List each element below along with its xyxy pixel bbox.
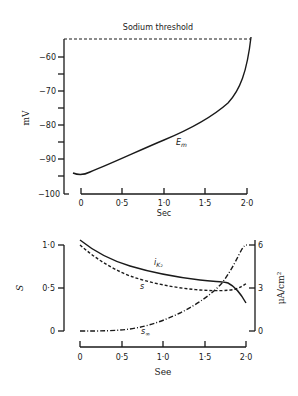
threshold-label: Sodium threshold bbox=[123, 23, 193, 32]
x-axis-label: See bbox=[155, 367, 172, 377]
y-tick-label: −80 bbox=[39, 121, 56, 130]
y-ticks bbox=[58, 57, 64, 176]
left-tick-label: 0·5 bbox=[42, 284, 55, 293]
x-tick-label: 0 bbox=[78, 199, 83, 208]
x-axis-label: Sec bbox=[157, 209, 171, 218]
em-label: Em bbox=[176, 138, 187, 148]
y-tick-label: −100 bbox=[38, 190, 60, 199]
right-tick-label: 3 bbox=[258, 284, 263, 293]
x-tick-label: 1·0 bbox=[157, 353, 170, 362]
em-curve bbox=[73, 37, 251, 174]
s-label: s bbox=[140, 282, 144, 291]
x-tick-label: 2·0 bbox=[241, 199, 254, 208]
bottom-chart: 1·0 0·5 0 S 6 3 0 μA/cm² 0 0·5 1·0 1·5 2… bbox=[15, 240, 286, 377]
ik2-label: iK₂ bbox=[154, 258, 163, 268]
x-tick-label: 0 bbox=[77, 353, 82, 362]
x-tick-label: 1·0 bbox=[158, 199, 171, 208]
x-tick-label: 0·5 bbox=[116, 199, 129, 208]
right-tick-label: 6 bbox=[258, 241, 263, 250]
left-tick-label: 0 bbox=[50, 327, 55, 336]
x-tick-label: 0·5 bbox=[116, 353, 129, 362]
right-tick-label: 0 bbox=[258, 327, 263, 336]
x-tick-label: 1·5 bbox=[199, 353, 212, 362]
s-infinity-label: s∞ bbox=[141, 327, 150, 337]
x-ticks bbox=[81, 188, 247, 194]
y-tick-label: −60 bbox=[39, 53, 56, 62]
x-tick-label: 2·0 bbox=[240, 353, 253, 362]
right-axis-label: μA/cm² bbox=[276, 271, 286, 304]
y-tick-label: −90 bbox=[39, 155, 56, 164]
left-tick-label: 1·0 bbox=[42, 241, 55, 250]
x-tick-label: 1·5 bbox=[199, 199, 212, 208]
x-ticks bbox=[80, 341, 246, 347]
ik2-curve bbox=[80, 240, 246, 303]
left-axis-label: S bbox=[15, 285, 25, 291]
y-axis-label: mV bbox=[21, 110, 31, 126]
y-tick-label: −70 bbox=[39, 87, 56, 96]
top-chart: Sodium threshold −60 −70 −80 −90 −100 mV bbox=[21, 23, 253, 218]
s-infinity-curve bbox=[80, 245, 247, 331]
figure: Sodium threshold −60 −70 −80 −90 −100 mV bbox=[0, 0, 298, 396]
